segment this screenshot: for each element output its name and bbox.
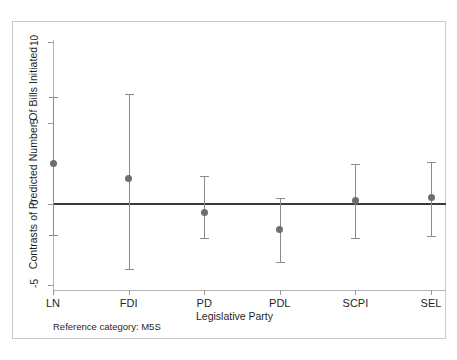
reference-category-note: Reference category: M5S bbox=[53, 321, 161, 332]
x-axis-tick bbox=[431, 290, 432, 295]
x-axis-line bbox=[53, 290, 446, 291]
y-axis-tick-label: 0 bbox=[29, 192, 40, 214]
data-point-pd bbox=[201, 209, 208, 216]
y-axis-title: Contrasts of Predicted Number Of Bills I… bbox=[27, 33, 39, 283]
error-bar-cap-lower-scpi bbox=[351, 238, 360, 239]
error-bar-cap-lower-sel bbox=[427, 236, 436, 237]
chart-figure: Contrasts of Predicted Number Of Bills I… bbox=[0, 0, 457, 360]
x-axis-tick-label-ln: LN bbox=[23, 297, 83, 309]
error-bar-cap-upper-fdi bbox=[125, 94, 134, 95]
x-axis-tick-label-sel: SEL bbox=[401, 297, 457, 309]
x-axis-tick bbox=[355, 290, 356, 295]
error-bar-cap-upper-sel bbox=[427, 162, 436, 163]
x-axis-tick-label-pdl: PDL bbox=[250, 297, 310, 309]
error-bar-cap-upper-pdl bbox=[276, 198, 285, 199]
error-bar-cap-upper-ln bbox=[49, 97, 58, 98]
x-axis-tick bbox=[280, 290, 281, 295]
error-bar-cap-upper-pd bbox=[200, 176, 209, 177]
x-axis-tick bbox=[53, 290, 54, 295]
error-bar-cap-lower-pdl bbox=[276, 262, 285, 263]
error-bar-pd bbox=[204, 176, 205, 238]
y-axis-tick bbox=[48, 42, 53, 43]
y-axis-tick-label: -5 bbox=[29, 273, 40, 295]
data-point-ln bbox=[50, 160, 57, 167]
data-point-fdi bbox=[125, 175, 132, 182]
data-point-sel bbox=[428, 194, 435, 201]
x-axis-tick bbox=[204, 290, 205, 295]
x-axis-tick-label-pd: PD bbox=[174, 297, 234, 309]
y-axis-tick-label: 5 bbox=[29, 111, 40, 133]
error-bar-cap-lower-ln bbox=[49, 235, 58, 236]
error-bar-cap-upper-scpi bbox=[351, 164, 360, 165]
y-axis-tick bbox=[48, 285, 53, 286]
x-axis-tick-label-fdi: FDI bbox=[99, 297, 159, 309]
y-axis-tick-label: 10 bbox=[29, 30, 40, 52]
zero-reference-line bbox=[53, 203, 446, 205]
x-axis-title-text: Legislative Party bbox=[196, 310, 273, 322]
error-bar-cap-lower-pd bbox=[200, 238, 209, 239]
plot-frame bbox=[12, 21, 446, 339]
x-axis-tick bbox=[129, 290, 130, 295]
error-bar-cap-lower-fdi bbox=[125, 269, 134, 270]
x-axis-tick-label-scpi: SCPI bbox=[325, 297, 385, 309]
